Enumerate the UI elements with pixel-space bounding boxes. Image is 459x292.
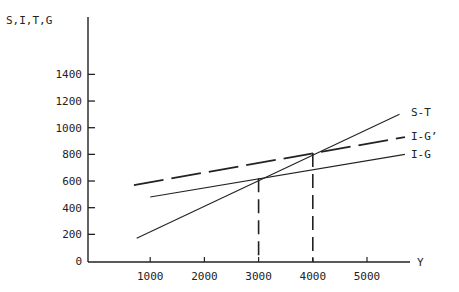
chart: S,I,T,G Y 0200400600800100012001400 1000… [0,0,459,292]
x-tick-label: 4000 [300,270,327,283]
intersection-guides [259,153,313,262]
y-axis-label: S,I,T,G [6,14,52,27]
y-tick-label: 1200 [56,95,83,108]
series-s-t-line [137,114,400,238]
y-tick-label: 1000 [56,122,83,135]
y-tick-label: 1400 [56,68,83,81]
series-label-s-t: S-T [411,106,431,119]
y-tick-label: 200 [62,228,82,241]
series-label-i-g-prime: I-G’ [411,130,438,143]
x-tick-label: 3000 [245,270,272,283]
y-tick-label: 400 [62,202,82,215]
series-label-i-g: I-G [411,148,431,161]
y-tick-label: 800 [62,148,82,161]
y-tick-label: 0 [75,255,82,268]
x-tick-label: 1000 [137,270,164,283]
x-axis-label: Y [417,256,424,269]
x-ticks: 10002000300040005000 [137,257,380,283]
x-tick-label: 2000 [191,270,218,283]
y-tick-label: 600 [62,175,82,188]
x-tick-label: 5000 [354,270,381,283]
y-ticks: 0200400600800100012001400 [56,68,96,268]
